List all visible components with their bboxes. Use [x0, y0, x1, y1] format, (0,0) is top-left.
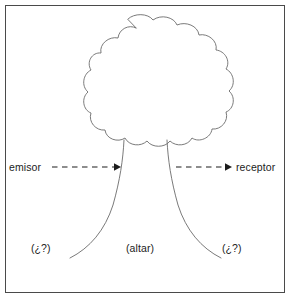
- emisor-arrow-head: [114, 163, 121, 171]
- label-left-unknown: (¿?): [31, 242, 51, 254]
- label-right-unknown: (¿?): [222, 242, 242, 254]
- receptor-arrow: [176, 163, 232, 171]
- diagram-root: emisor receptor (¿?) (altar) (¿?): [0, 0, 292, 301]
- label-receptor: receptor: [236, 161, 275, 173]
- label-altar: (altar): [126, 242, 154, 254]
- emisor-arrow: [52, 163, 121, 171]
- tree-trunk-right-edge: [167, 140, 221, 258]
- receptor-arrow-head: [225, 163, 232, 171]
- tree-canopy-shape: [84, 15, 234, 147]
- tree-trunk-left-edge: [70, 140, 124, 258]
- label-emisor: emisor: [9, 161, 41, 173]
- diagram-canvas: [0, 0, 292, 301]
